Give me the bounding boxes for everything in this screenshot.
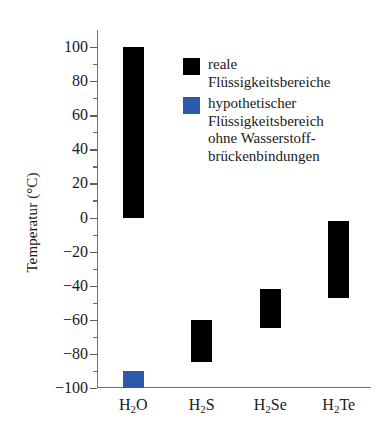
x-axis-label-h2se: H2Se [254,396,287,414]
y-tick-label: −20 [63,244,88,260]
y-tick-minor [93,132,97,133]
legend-swatch [183,97,200,114]
y-tick-major [90,81,97,82]
temperature-range-chart: Temperatur (°C) 100806040200−20−40−60−80… [0,0,379,434]
legend-label-line: ohne Wasserstoff- [208,130,324,148]
legend-swatch [183,58,200,75]
legend-label-line: Flüssigkeitsbereiche [208,74,330,92]
y-tick-label: −40 [63,278,88,294]
legend-label: hypothetischerFlüssigkeitsbereichohne Wa… [208,95,324,165]
legend-label-line: brückenbindungen [208,148,324,166]
y-tick-label: 60 [72,107,88,123]
y-tick-major [90,47,97,48]
y-tick-major [90,320,97,321]
y-tick-label: −100 [55,380,88,396]
legend-label-line: hypothetischer [208,95,324,113]
x-axis-label-h2s: H2S [189,396,215,414]
legend: realeFlüssigkeitsbereichehypothetischerF… [183,56,375,169]
y-tick-label: 100 [64,39,88,55]
y-tick-label: 40 [72,141,88,157]
x-axis-label-h2o: H2O [119,396,148,414]
y-tick-minor [93,200,97,201]
y-tick-minor [93,269,97,270]
y-axis-title: Temperatur (°C) [24,123,41,323]
y-tick-major [90,149,97,150]
y-tick-major [90,252,97,253]
y-tick-minor [93,64,97,65]
y-tick-label: 20 [72,175,88,191]
y-tick-major [90,115,97,116]
legend-label-line: reale [208,56,330,74]
legend-label: realeFlüssigkeitsbereiche [208,56,330,91]
y-tick-major [90,218,97,219]
legend-item-2: hypothetischerFlüssigkeitsbereichohne Wa… [183,95,375,165]
y-tick-minor [93,166,97,167]
y-tick-label: −60 [63,312,88,328]
bar-real-range [123,47,144,218]
y-axis-line [97,30,98,388]
bar-real-range [260,289,281,328]
legend-item-1: realeFlüssigkeitsbereiche [183,56,375,91]
y-tick-minor [93,303,97,304]
y-tick-major [90,286,97,287]
x-axis-label-h2te: H2Te [322,396,355,414]
y-tick-label: −80 [63,346,88,362]
bar-real-range [328,221,349,298]
y-tick-label: 80 [72,73,88,89]
legend-label-line: Flüssigkeitsbereich [208,113,324,131]
y-tick-minor [93,235,97,236]
bar-hypothetical-range [123,371,144,388]
y-tick-major [90,354,97,355]
bar-real-range [191,320,212,363]
y-tick-major [90,183,97,184]
y-tick-major [90,388,97,389]
y-tick-minor [93,98,97,99]
y-tick-minor [93,371,97,372]
y-tick-label: 0 [80,210,88,226]
y-tick-minor [93,337,97,338]
